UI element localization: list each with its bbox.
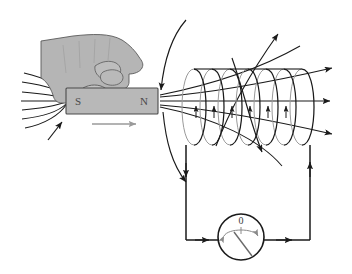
bar-magnet: S N: [66, 88, 158, 114]
magnet-north-label: N: [140, 95, 148, 107]
magnet-south-label: S: [75, 95, 81, 107]
induction-diagram: S N: [0, 0, 352, 274]
galvanometer[interactable]: 0: [218, 214, 264, 260]
galvanometer-zero-label: 0: [239, 215, 244, 226]
diagram-canvas: S N: [0, 0, 352, 274]
